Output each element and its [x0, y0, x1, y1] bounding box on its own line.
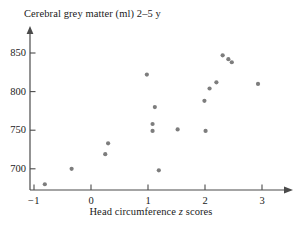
data-point: [157, 168, 161, 172]
data-point: [150, 122, 154, 126]
y-tick-label-700: 700: [0, 164, 26, 175]
x-tick-label--1: −1: [22, 196, 46, 207]
scatter-plot-figure: Cerebral grey matter (ml) 2–5 y Head cir…: [0, 0, 302, 228]
data-point: [106, 141, 110, 145]
data-point: [221, 53, 225, 57]
chart-title: Cerebral grey matter (ml) 2–5 y: [24, 9, 161, 20]
x-axis-arrowhead: [284, 187, 293, 194]
x-tick-label-3: 3: [250, 196, 274, 207]
x-tick-label-1: 1: [136, 196, 160, 207]
y-tick-label-800: 800: [0, 87, 26, 98]
data-point: [103, 152, 107, 156]
x-axis-title: Head circumference z scores: [0, 207, 302, 218]
data-point: [207, 86, 211, 90]
plot-canvas: [0, 0, 302, 228]
data-point: [203, 129, 207, 133]
x-axis-title-before: Head circumference: [89, 206, 178, 217]
data-point: [230, 60, 234, 64]
data-point: [256, 82, 260, 86]
data-points: [43, 53, 260, 186]
x-axis-title-after: scores: [183, 206, 213, 217]
data-point: [150, 129, 154, 133]
y-tick-label-850: 850: [0, 48, 26, 59]
data-point: [43, 182, 47, 186]
y-axis-arrowhead: [27, 26, 34, 34]
data-point: [226, 57, 230, 61]
x-tick-label-2: 2: [193, 196, 217, 207]
data-point: [176, 127, 180, 131]
y-tick-label-750: 750: [0, 125, 26, 136]
x-tick-label-0: 0: [79, 196, 103, 207]
data-point: [145, 73, 149, 77]
data-point: [202, 99, 206, 103]
data-point: [153, 105, 157, 109]
data-point: [70, 167, 74, 171]
data-point: [214, 80, 218, 84]
axes: [27, 26, 293, 193]
